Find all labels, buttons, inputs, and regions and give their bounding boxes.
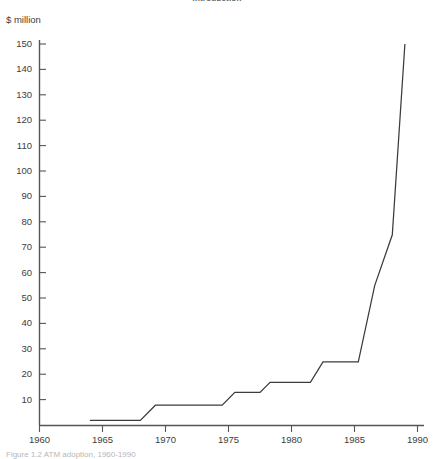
ytick-label-100: 100 xyxy=(2,165,32,176)
ytick-label-40: 40 xyxy=(2,317,32,328)
ytick-label-50: 50 xyxy=(2,292,32,303)
y-axis-ticks xyxy=(40,44,47,400)
ytick-label-120: 120 xyxy=(2,114,32,125)
ytick-label-10: 10 xyxy=(2,394,32,405)
xtick-label-1990: 1990 xyxy=(398,434,434,445)
x-axis-ticks xyxy=(40,426,418,433)
xtick-label-1970: 1970 xyxy=(146,434,186,445)
xtick-label-1980: 1980 xyxy=(272,434,312,445)
ytick-label-130: 130 xyxy=(2,89,32,100)
data-series-line xyxy=(90,44,405,420)
xtick-label-1965: 1965 xyxy=(83,434,123,445)
ytick-label-30: 30 xyxy=(2,343,32,354)
ytick-label-110: 110 xyxy=(2,140,32,151)
ytick-label-150: 150 xyxy=(2,38,32,49)
figure-caption: Figure 1.2 ATM adoption, 1960-1990 xyxy=(6,450,136,459)
ytick-label-20: 20 xyxy=(2,368,32,379)
ytick-label-60: 60 xyxy=(2,267,32,278)
xtick-label-1960: 1960 xyxy=(20,434,60,445)
xtick-label-1985: 1985 xyxy=(335,434,375,445)
xtick-label-1975: 1975 xyxy=(209,434,249,445)
ytick-label-70: 70 xyxy=(2,241,32,252)
ytick-label-90: 90 xyxy=(2,190,32,201)
ytick-label-140: 140 xyxy=(2,63,32,74)
ytick-label-80: 80 xyxy=(2,216,32,227)
